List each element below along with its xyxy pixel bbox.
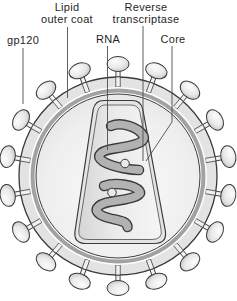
spike-head — [107, 281, 129, 296]
rna-label: RNA — [96, 33, 120, 45]
reverse-transcriptase-ball — [108, 188, 117, 197]
core-label: Core — [160, 33, 185, 45]
spike-head — [9, 107, 33, 134]
lipid-outer-coat-label-line2: outer coat — [41, 13, 93, 25]
spike-head — [107, 57, 129, 72]
spike-head — [143, 60, 169, 82]
virus-diagram: gp120 Lipid outer coat RNA Reverse trans… — [0, 0, 237, 301]
spike-head — [143, 270, 169, 292]
lipid-outer-coat-label-line1: Lipid — [55, 1, 80, 13]
reverse-transcriptase-ball — [121, 159, 130, 168]
spike-head — [67, 60, 93, 82]
spike-head — [219, 183, 237, 207]
spike-head — [9, 219, 33, 246]
reverse-transcriptase-label-line1: Reverse — [124, 1, 167, 13]
figure: gp120 Lipid outer coat RNA Reverse trans… — [0, 0, 237, 301]
labels-layer: gp120 Lipid outer coat RNA Reverse trans… — [7, 1, 186, 46]
spike-head — [0, 144, 17, 168]
spike-head — [0, 183, 17, 207]
gp120-spike — [107, 273, 129, 296]
spike-head — [219, 144, 237, 168]
membrane-stalk-divider — [116, 265, 120, 275]
reverse-transcriptase-label-line2: transcriptase — [113, 13, 180, 25]
membrane-stalk-divider — [116, 77, 120, 87]
gp120-label: gp120 — [7, 34, 39, 46]
spike-head — [67, 270, 93, 292]
gp120-spike — [107, 57, 129, 80]
spike-head — [203, 107, 227, 134]
spike-head — [203, 219, 227, 246]
